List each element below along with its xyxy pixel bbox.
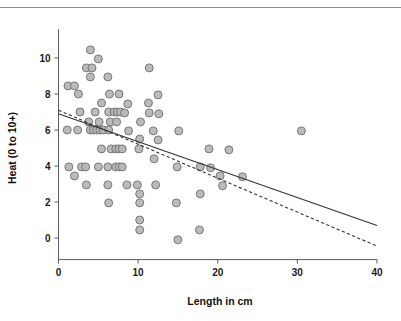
scatter-point bbox=[174, 236, 182, 244]
scatter-point bbox=[70, 82, 78, 90]
scatter-point bbox=[86, 46, 94, 54]
scatter-point bbox=[104, 163, 112, 171]
scatter-point bbox=[121, 109, 129, 117]
scatter-point bbox=[63, 126, 71, 134]
scatter-plot: 0246810 010203040 Length in cm Heat (0 t… bbox=[0, 0, 401, 321]
data-points-layer bbox=[63, 46, 305, 244]
x-tick-label: 10 bbox=[133, 267, 145, 278]
scatter-point bbox=[118, 163, 126, 171]
scatter-point bbox=[219, 182, 227, 190]
scatter-point bbox=[225, 146, 233, 154]
scatter-point bbox=[175, 127, 183, 135]
chart-page: 0246810 010203040 Length in cm Heat (0 t… bbox=[0, 0, 401, 321]
x-tick-label: 30 bbox=[292, 267, 304, 278]
y-tick-label: 8 bbox=[45, 89, 51, 100]
scatter-point bbox=[88, 64, 96, 72]
scatter-point bbox=[155, 110, 163, 118]
y-axis-title: Heat (0 to 10+) bbox=[6, 112, 18, 184]
y-tick-label: 2 bbox=[45, 197, 51, 208]
scatter-point bbox=[113, 118, 121, 126]
scatter-point bbox=[91, 108, 99, 116]
scatter-point bbox=[154, 91, 162, 99]
scatter-point bbox=[105, 199, 113, 207]
scatter-point bbox=[136, 216, 144, 224]
scatter-point bbox=[145, 109, 153, 117]
scatter-point bbox=[136, 190, 144, 198]
y-tick-label: 4 bbox=[45, 161, 51, 172]
scatter-point bbox=[65, 163, 73, 171]
x-axis-ticks: 010203040 bbox=[56, 260, 383, 278]
scatter-point bbox=[105, 90, 113, 98]
scatter-point bbox=[124, 100, 132, 108]
scatter-point bbox=[74, 126, 82, 134]
scatter-point bbox=[95, 118, 103, 126]
scatter-point bbox=[76, 108, 84, 116]
scatter-point bbox=[97, 145, 105, 153]
scatter-point bbox=[136, 199, 144, 207]
scatter-point bbox=[144, 99, 152, 107]
scatter-point bbox=[195, 226, 203, 234]
scatter-point bbox=[82, 181, 90, 189]
scatter-point bbox=[145, 64, 153, 72]
x-tick-label: 20 bbox=[212, 267, 224, 278]
scatter-point bbox=[94, 163, 102, 171]
scatter-point bbox=[115, 90, 123, 98]
x-tick-label: 40 bbox=[371, 267, 383, 278]
scatter-point bbox=[154, 136, 162, 144]
scatter-point bbox=[196, 190, 204, 198]
x-tick-label: 0 bbox=[56, 267, 62, 278]
scatter-point bbox=[104, 73, 112, 81]
scatter-point bbox=[133, 181, 141, 189]
scatter-point bbox=[86, 73, 94, 81]
scatter-point bbox=[97, 99, 105, 107]
scatter-point bbox=[136, 226, 144, 234]
scatter-point bbox=[205, 145, 213, 153]
y-tick-label: 6 bbox=[45, 125, 51, 136]
y-tick-label: 0 bbox=[45, 233, 51, 244]
scatter-point bbox=[94, 55, 102, 63]
scatter-point bbox=[150, 155, 158, 163]
scatter-point bbox=[173, 163, 181, 171]
y-axis-ticks: 0246810 bbox=[39, 53, 58, 244]
scatter-point bbox=[149, 127, 157, 135]
scatter-point bbox=[125, 127, 133, 135]
scatter-point bbox=[82, 163, 90, 171]
scatter-point bbox=[123, 181, 131, 189]
scatter-point bbox=[104, 181, 112, 189]
scatter-point bbox=[137, 118, 145, 126]
scatter-point bbox=[70, 172, 78, 180]
scatter-point bbox=[74, 90, 82, 98]
y-tick-label: 10 bbox=[39, 53, 51, 64]
scatter-point bbox=[118, 145, 126, 153]
x-axis-title: Length in cm bbox=[187, 295, 252, 307]
scatter-point bbox=[172, 199, 180, 207]
scatter-point bbox=[152, 181, 160, 189]
scatter-point bbox=[297, 127, 305, 135]
